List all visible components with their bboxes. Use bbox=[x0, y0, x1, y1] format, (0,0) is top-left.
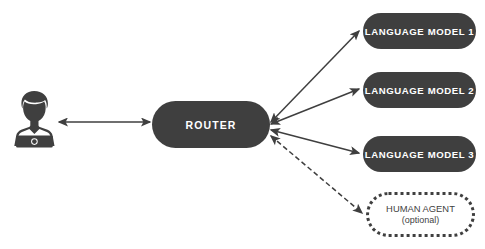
user-with-laptop-icon bbox=[8, 88, 60, 152]
node-language-model-3-label: LANGUAGE MODEL 3 bbox=[365, 149, 475, 160]
node-router-label: ROUTER bbox=[186, 119, 237, 131]
diagram-canvas: ROUTER LANGUAGE MODEL 1 LANGUAGE MODEL 2… bbox=[0, 0, 485, 249]
edge-router-human-agent bbox=[271, 136, 362, 213]
node-language-model-1[interactable]: LANGUAGE MODEL 1 bbox=[363, 13, 476, 49]
node-router[interactable]: ROUTER bbox=[152, 101, 270, 148]
edge-router-lm2 bbox=[271, 89, 359, 124]
node-language-model-2[interactable]: LANGUAGE MODEL 2 bbox=[363, 72, 476, 108]
node-human-agent-label: HUMAN AGENT bbox=[386, 203, 455, 215]
node-language-model-2-label: LANGUAGE MODEL 2 bbox=[365, 85, 475, 96]
node-language-model-1-label: LANGUAGE MODEL 1 bbox=[365, 26, 475, 37]
edge-router-lm1 bbox=[271, 31, 359, 122]
node-human-agent[interactable]: HUMAN AGENT (optional) bbox=[366, 192, 475, 237]
edge-router-lm3 bbox=[271, 130, 359, 153]
node-human-agent-sublabel: (optional) bbox=[402, 215, 440, 227]
node-language-model-3[interactable]: LANGUAGE MODEL 3 bbox=[363, 136, 476, 172]
